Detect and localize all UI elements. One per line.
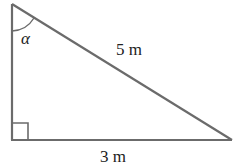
triangle-diagram: α 5 m 3 m: [0, 0, 233, 165]
right-angle-marker: [12, 123, 28, 140]
angle-label: α: [21, 29, 31, 48]
base-label: 3 m: [100, 147, 126, 165]
hypotenuse-label: 5 m: [116, 40, 142, 59]
hypotenuse: [12, 4, 232, 140]
